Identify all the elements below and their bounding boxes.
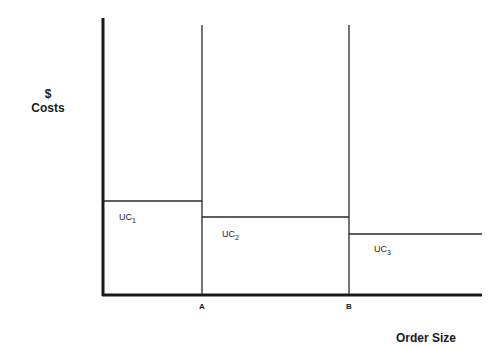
y-axis-label-symbol: $ — [18, 87, 78, 101]
y-axis-label: $ Costs — [18, 87, 78, 115]
uc1-label: UC1 — [119, 212, 136, 224]
x-tick-a: A — [199, 302, 205, 311]
x-tick-b: B — [346, 302, 352, 311]
x-axis-label: Order Size — [396, 331, 456, 345]
price-break-chart: $ Costs Order Size A B UC1 UC2 UC3 — [0, 0, 498, 349]
y-axis-label-text: Costs — [18, 101, 78, 115]
chart-plot — [0, 0, 498, 349]
uc2-label: UC2 — [222, 229, 239, 241]
uc3-label: UC3 — [374, 244, 391, 256]
